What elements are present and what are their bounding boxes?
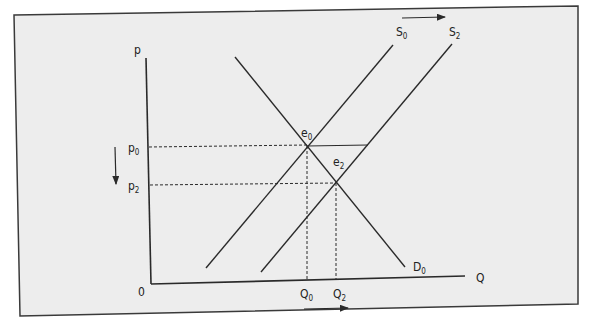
diagram-canvas: p Q 0 S0 S2 D0 e0 e2 p0 p2 Q0 Q2: [0, 0, 590, 329]
figure: p Q 0 S0 S2 D0 e0 e2 p0 p2 Q0 Q2: [0, 0, 590, 329]
quantity-axis-label: Q: [476, 271, 485, 285]
origin-label: 0: [138, 285, 145, 299]
price-axis-label: p: [134, 43, 141, 57]
